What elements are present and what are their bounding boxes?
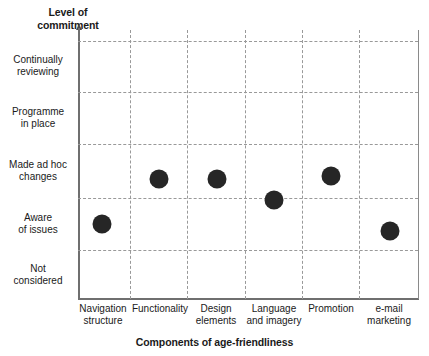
x-tick-line-2: and imagery	[243, 315, 305, 327]
y-tick-label-made-ad-hoc-changes: Made ad hoc changes	[2, 159, 74, 183]
x-tick-line-1: Design	[188, 303, 244, 315]
x-axis-title: Components of age-friendliness	[0, 336, 429, 348]
x-tick-line-1: Language	[243, 303, 305, 315]
data-point-language-and-imagery	[265, 191, 284, 210]
y-tick-label-not-considered: Not considered	[2, 263, 74, 287]
data-point-promotion	[322, 167, 341, 186]
y-axis-title-line-2: commitment	[14, 19, 122, 32]
x-tick-line-1: Navigation	[73, 303, 133, 315]
gridline-horizontal	[78, 198, 418, 199]
x-tick-label-navigation-structure: Navigation structure	[73, 303, 133, 327]
chart-container: Level of commitment Continually reviewin…	[0, 0, 429, 356]
y-tick-line-1: Aware	[2, 212, 74, 224]
y-axis-line	[78, 28, 80, 300]
x-tick-line-2: structure	[73, 315, 133, 327]
x-tick-line-2: elements	[188, 315, 244, 327]
data-point-functionality	[150, 170, 169, 189]
y-tick-label-programme-in-place: Programme in place	[2, 106, 74, 130]
gridline-vertical	[187, 30, 188, 299]
y-axis-title: Level of commitment	[14, 6, 122, 31]
x-tick-line-1: e-mail	[360, 303, 418, 315]
gridline-horizontal	[78, 144, 418, 145]
gridline-vertical	[302, 30, 303, 299]
gridline-vertical	[245, 30, 246, 299]
y-tick-line-2: of issues	[2, 224, 74, 236]
gridline-horizontal	[78, 250, 418, 251]
y-tick-line-1: Programme	[2, 106, 74, 118]
gridline-vertical	[130, 30, 131, 299]
gridline-horizontal	[78, 41, 418, 42]
gridline-vertical	[359, 30, 360, 299]
y-tick-line-2: reviewing	[2, 66, 74, 78]
y-tick-line-1: Made ad hoc	[2, 159, 74, 171]
y-tick-line-2: considered	[2, 275, 74, 287]
x-tick-line-1: Promotion	[302, 303, 360, 315]
y-axis-title-line-1: Level of	[14, 6, 122, 19]
y-tick-label-continually-reviewing: Continually reviewing	[2, 54, 74, 78]
y-tick-line-2: changes	[2, 171, 74, 183]
x-tick-label-design-elements: Design elements	[188, 303, 244, 327]
x-tick-line-2: marketing	[360, 315, 418, 327]
x-tick-label-email-marketing: e-mail marketing	[360, 303, 418, 327]
y-tick-line-1: Not	[2, 263, 74, 275]
y-tick-line-2: in place	[2, 118, 74, 130]
data-point-navigation-structure	[93, 215, 112, 234]
x-tick-line-1: Functionality	[129, 303, 191, 315]
gridline-horizontal	[78, 92, 418, 93]
plot-frame-right	[418, 30, 419, 299]
x-tick-label-promotion: Promotion	[302, 303, 360, 315]
data-point-design-elements	[208, 170, 227, 189]
y-tick-line-1: Continually	[2, 54, 74, 66]
data-point-email-marketing	[381, 222, 400, 241]
x-tick-label-language-and-imagery: Language and imagery	[243, 303, 305, 327]
y-tick-label-aware-of-issues: Aware of issues	[2, 212, 74, 236]
x-tick-label-functionality: Functionality	[129, 303, 191, 315]
